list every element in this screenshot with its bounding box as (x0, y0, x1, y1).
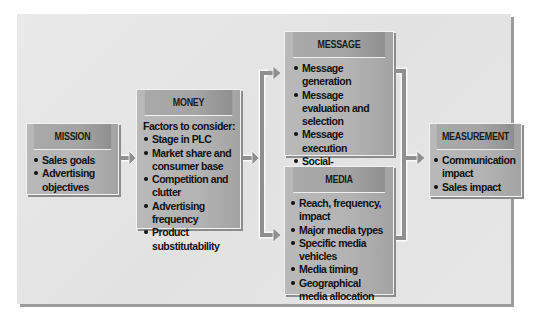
media-list: Reach, frequency, impact Major media typ… (290, 197, 389, 303)
list-item: Media timing (290, 263, 389, 276)
message-box: MESSAGE Message generation Message evalu… (284, 31, 394, 156)
list-item: Competition and clutter (143, 173, 236, 200)
list-item: Reach, frequency, impact (290, 197, 389, 224)
list-item: Sales impact (433, 181, 517, 194)
money-box: MONEY Factors to consider: Stage in PLC … (136, 89, 241, 229)
mission-box: MISSION Sales goals Advertising objectiv… (26, 123, 119, 195)
message-title: MESSAGE (293, 32, 385, 58)
list-item: Specific media vehicles (290, 237, 389, 264)
money-title: MONEY (145, 90, 233, 116)
list-item: Advertising objectives (33, 167, 114, 194)
media-title: MEDIA (293, 167, 385, 193)
money-intro: Factors to consider: (143, 120, 236, 133)
list-item: Major media types (290, 224, 389, 237)
measurement-box: MEASUREMENT Communication impact Sales i… (429, 123, 522, 197)
list-item: Advertising frequency (143, 200, 236, 227)
list-item: Sales goals (33, 154, 114, 167)
list-item: Communication impact (433, 154, 517, 181)
measurement-title: MEASUREMENT (437, 124, 514, 150)
mission-list: Sales goals Advertising objectives (33, 154, 114, 194)
media-box: MEDIA Reach, frequency, impact Major med… (284, 166, 394, 295)
money-list: Stage in PLC Market share and consumer b… (143, 133, 236, 253)
mission-title: MISSION (34, 124, 111, 150)
list-item: Message execution (293, 128, 389, 155)
list-item: Stage in PLC (143, 133, 236, 146)
list-item: Message evaluation and selection (293, 89, 389, 129)
list-item: Market share and consumer base (143, 147, 236, 174)
list-item: Message generation (293, 62, 389, 89)
list-item: Geographical media allocation (290, 277, 389, 304)
measurement-list: Communication impact Sales impact (433, 154, 517, 194)
list-item: Product substitutability (143, 226, 236, 253)
